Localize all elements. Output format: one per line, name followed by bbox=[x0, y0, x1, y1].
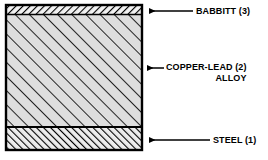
callout-label-babbitt: BABBITT (3) bbox=[196, 6, 250, 17]
layer-stack bbox=[5, 4, 143, 151]
callout-label-copper-lead: COPPER-LEAD (2)ALLOY bbox=[166, 62, 247, 84]
bearing-cross-section-diagram: BABBITT (3) COPPER-LEAD (2)ALLOY STEEL (… bbox=[0, 0, 268, 160]
callout-label-copper-lead-line2: ALLOY bbox=[166, 73, 247, 84]
layer-steel bbox=[5, 127, 143, 151]
layer-copper-lead-alloy bbox=[5, 15, 143, 127]
callout-label-copper-lead-line1: COPPER-LEAD (2) bbox=[166, 62, 247, 72]
callout-label-steel: STEEL (1) bbox=[213, 135, 256, 146]
